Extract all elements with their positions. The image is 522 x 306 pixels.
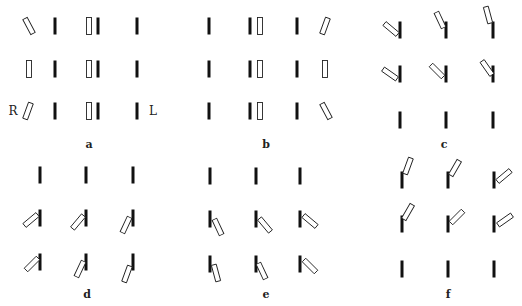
black-bar	[136, 61, 139, 78]
black-bar	[54, 103, 57, 120]
panel-label: e	[263, 288, 270, 301]
black-bar	[401, 172, 404, 189]
open-bar	[23, 102, 34, 120]
open-bar	[323, 61, 328, 78]
black-bar	[249, 103, 252, 120]
open-bar	[302, 214, 318, 229]
black-bar	[447, 261, 450, 278]
black-bar	[299, 168, 302, 185]
panel-b: b	[208, 17, 333, 151]
panel-c: c	[382, 6, 495, 151]
open-bar	[320, 102, 332, 119]
black-bar	[39, 167, 42, 184]
open-bar	[87, 103, 92, 120]
open-bar	[449, 159, 462, 176]
black-bar	[399, 66, 402, 83]
open-bar	[496, 169, 512, 184]
open-bar	[449, 209, 465, 225]
black-bar	[136, 18, 139, 35]
open-bar	[258, 18, 263, 35]
open-bar	[71, 214, 86, 230]
black-bar	[132, 167, 135, 184]
black-bar	[492, 112, 495, 129]
black-bar	[208, 61, 211, 78]
black-bar	[493, 261, 496, 278]
black-bar	[209, 211, 212, 228]
open-bar	[87, 61, 92, 78]
black-bar	[97, 18, 100, 35]
panel-d: d	[23, 167, 135, 302]
open-bar	[211, 264, 220, 282]
black-bar	[249, 61, 252, 78]
panel-e: e	[209, 168, 319, 302]
right-side-label: R	[8, 104, 18, 118]
panel-f: f	[401, 157, 514, 301]
open-bar	[258, 103, 263, 120]
black-bar	[399, 22, 402, 39]
open-bar	[258, 217, 273, 233]
open-bar	[27, 61, 32, 78]
left-side-label: L	[149, 104, 157, 118]
open-bar	[122, 265, 133, 283]
open-bar	[87, 18, 92, 35]
black-bar	[85, 167, 88, 184]
open-bar	[23, 17, 35, 34]
panel-a: a	[23, 17, 139, 151]
black-bar	[445, 112, 448, 129]
black-bar	[299, 211, 302, 228]
open-bar	[302, 258, 318, 274]
black-bar	[493, 216, 496, 233]
black-bar	[136, 103, 139, 120]
black-bar	[399, 112, 402, 129]
black-bar	[492, 22, 495, 39]
open-bar	[24, 256, 40, 272]
black-bar	[296, 103, 299, 120]
black-bar	[54, 18, 57, 35]
black-bar	[296, 61, 299, 78]
black-bar	[97, 103, 100, 120]
black-bar	[447, 216, 450, 233]
open-bar	[320, 17, 331, 35]
black-bar	[209, 168, 212, 185]
open-bar	[429, 63, 445, 79]
panel-label: b	[262, 138, 270, 151]
black-bar	[445, 66, 448, 83]
panel-label: d	[83, 288, 91, 301]
black-bar	[97, 61, 100, 78]
black-bar	[54, 61, 57, 78]
panels-group: abcdef	[23, 6, 514, 301]
black-bar	[208, 103, 211, 120]
open-bar	[403, 157, 414, 175]
open-bar	[258, 61, 263, 78]
open-bar	[120, 216, 132, 234]
open-bar	[434, 11, 446, 29]
open-bar	[212, 218, 224, 236]
black-bar	[39, 254, 42, 271]
black-bar	[208, 18, 211, 35]
black-bar	[255, 168, 258, 185]
open-bar	[382, 67, 399, 81]
black-bar	[493, 172, 496, 189]
black-bar	[299, 256, 302, 273]
black-bar	[39, 210, 42, 227]
panel-label: f	[446, 288, 452, 301]
black-bar	[255, 211, 258, 228]
panel-label: c	[441, 138, 448, 151]
open-bar	[483, 6, 492, 24]
black-bar	[401, 261, 404, 278]
panel-label: a	[85, 138, 92, 151]
open-bar	[256, 262, 268, 280]
open-bar	[383, 22, 399, 37]
black-bar	[209, 256, 212, 273]
open-bar	[74, 260, 86, 278]
bar-configuration-figure: abcdef RL	[0, 0, 522, 306]
black-bar	[249, 18, 252, 35]
open-bar	[402, 203, 415, 220]
open-bar	[497, 213, 514, 227]
open-bar	[23, 213, 39, 228]
black-bar	[296, 18, 299, 35]
